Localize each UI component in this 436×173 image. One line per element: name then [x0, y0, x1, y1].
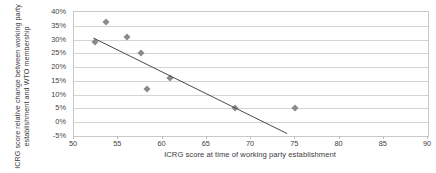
x-axis-title: ICRG score at time of working party esta… — [73, 150, 427, 159]
trend-line-layer — [0, 0, 436, 173]
trend-line — [93, 38, 287, 134]
scatter-chart: ICRG score relative change between worki… — [0, 0, 436, 173]
